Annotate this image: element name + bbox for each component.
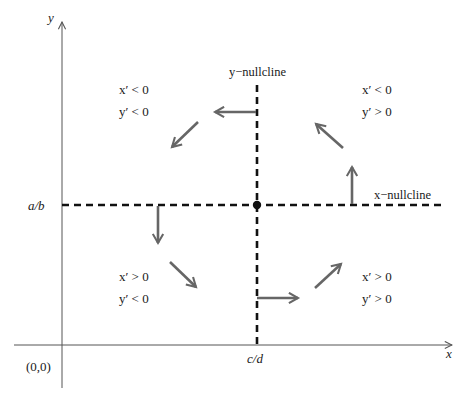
- x-nullcline-label: x−nullcline: [374, 188, 431, 202]
- region-top-left-xprime: x′ < 0: [119, 82, 149, 97]
- region-top-right-yprime: y′ > 0: [362, 104, 392, 119]
- region-top-left-yprime: y′ < 0: [119, 104, 149, 119]
- y-nullcline-label: y−nullcline: [229, 65, 286, 79]
- arrow-up-left-icon: [316, 124, 343, 148]
- region-bottom-left-xprime: x′ > 0: [119, 269, 149, 284]
- y-axis-label: y: [46, 10, 54, 25]
- region-bottom-right-xprime: x′ > 0: [362, 269, 392, 284]
- equilibrium-point: [253, 201, 261, 209]
- x-axis-label: x: [445, 346, 452, 361]
- region-top-right-xprime: x′ < 0: [362, 82, 392, 97]
- x-tick-label-c-over-d: c/d: [247, 351, 263, 366]
- region-bottom-left-yprime: y′ < 0: [119, 291, 149, 306]
- arrow-down-left-icon: [172, 122, 198, 147]
- arrow-down-right-icon: [170, 262, 196, 287]
- origin-label: (0,0): [26, 359, 51, 374]
- arrow-up-right-icon: [315, 264, 341, 288]
- phase-plane-diagram: y x (0,0) c/d a/b y−nullcline x−nullclin…: [0, 0, 471, 405]
- region-bottom-right-yprime: y′ > 0: [362, 291, 392, 306]
- y-tick-label-a-over-b: a/b: [28, 198, 45, 213]
